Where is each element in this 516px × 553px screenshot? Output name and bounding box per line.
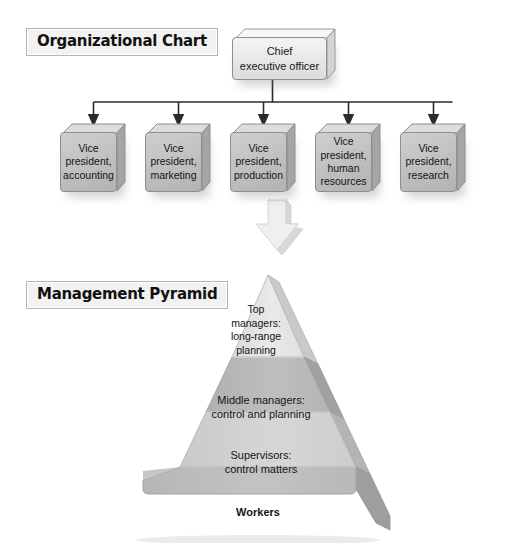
- ceo-node-label: Chief executive officer: [232, 37, 327, 80]
- vp-node-label: Vice president, accounting: [60, 132, 117, 192]
- vp-node-research: Vice president, research: [400, 123, 466, 192]
- down-arrow-icon: [248, 198, 310, 260]
- vp-node-accounting: Vice president, accounting: [60, 123, 126, 192]
- management-pyramid: [128, 268, 403, 543]
- vp-node-label: Vice president, marketing: [145, 132, 202, 192]
- vp-node-marketing: Vice president, marketing: [145, 123, 211, 192]
- vp-node-human-resources: Vice president, human resources: [315, 123, 381, 192]
- pyramid-band-workers: [143, 467, 356, 494]
- vp-node-label: Vice president, research: [400, 132, 457, 192]
- pyramid-band-supervisors: [180, 412, 356, 467]
- pyramid-side-workers: [356, 467, 390, 530]
- vp-node-label: Vice president, human resources: [315, 132, 372, 192]
- diagram-canvas: Organizational Chart Management Pyramid …: [0, 0, 516, 553]
- organizational-chart-title: Organizational Chart: [26, 28, 218, 56]
- ceo-node: Chief executive officer: [232, 28, 336, 80]
- vp-node-production: Vice president, production: [230, 123, 296, 192]
- vp-node-label: Vice president, production: [230, 132, 287, 192]
